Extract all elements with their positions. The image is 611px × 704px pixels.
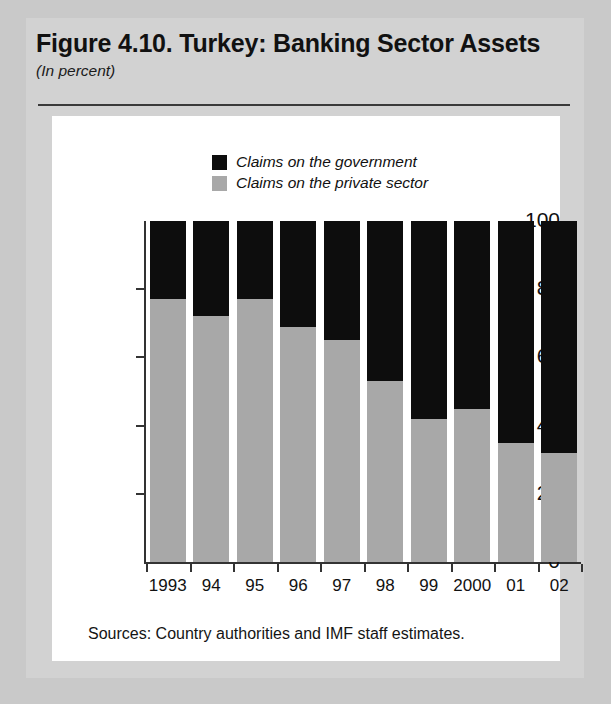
x-axis-tick-mark xyxy=(190,564,192,572)
bar-segment-government xyxy=(411,221,447,419)
x-axis-tick-label: 97 xyxy=(320,576,364,596)
x-axis-tick-mark xyxy=(407,564,409,572)
y-axis-tick-mark xyxy=(136,288,145,290)
y-axis-tick-mark xyxy=(136,493,145,495)
bar-segment-government xyxy=(541,221,577,453)
x-axis-tick-label: 99 xyxy=(407,576,451,596)
x-axis-tick-mark xyxy=(538,564,540,572)
x-axis-tick-label: 95 xyxy=(233,576,277,596)
stacked-bar-chart: 020406080100199394959697989920000102 xyxy=(52,116,560,661)
x-axis-tick-label: 96 xyxy=(277,576,321,596)
x-axis-tick-mark xyxy=(277,564,279,572)
x-axis-tick-label: 02 xyxy=(538,576,582,596)
bar-94 xyxy=(193,221,229,562)
figure-header: Figure 4.10. Turkey: Banking Sector Asse… xyxy=(36,30,572,80)
page-title: Figure 4.10. Turkey: Banking Sector Asse… xyxy=(36,30,572,58)
bar-segment-private xyxy=(454,409,490,562)
bar-segment-private xyxy=(541,453,577,562)
bar-segment-private xyxy=(237,299,273,562)
x-axis-tick-label: 94 xyxy=(190,576,234,596)
bar-segment-government xyxy=(454,221,490,409)
bar-1993 xyxy=(150,221,186,562)
x-axis-tick-mark xyxy=(233,564,235,572)
bar-01 xyxy=(498,221,534,562)
bar-02 xyxy=(541,221,577,562)
bar-segment-private xyxy=(498,443,534,562)
figure-subtitle: (In percent) xyxy=(36,62,572,80)
header-divider xyxy=(38,104,570,106)
bar-segment-government xyxy=(324,221,360,340)
x-axis-tick-mark xyxy=(364,564,366,572)
source-note: Sources: Country authorities and IMF sta… xyxy=(88,625,465,643)
bar-segment-private xyxy=(324,340,360,562)
bar-segment-government xyxy=(367,221,403,381)
bar-95 xyxy=(237,221,273,562)
plot-panel: Claims on the government Claims on the p… xyxy=(52,116,560,661)
bar-segment-private xyxy=(193,316,229,562)
figure-card: Figure 4.10. Turkey: Banking Sector Asse… xyxy=(26,18,584,678)
x-axis-tick-mark xyxy=(320,564,322,572)
bar-segment-government xyxy=(193,221,229,316)
x-axis-tick-mark xyxy=(451,564,453,572)
bar-segment-private xyxy=(150,299,186,562)
bar-segment-private xyxy=(411,419,447,562)
y-axis-tick-mark xyxy=(136,356,145,358)
bar-segment-government xyxy=(280,221,316,327)
figure-page: Figure 4.10. Turkey: Banking Sector Asse… xyxy=(0,0,611,704)
x-axis-tick-label: 2000 xyxy=(451,576,495,596)
x-axis-tick-mark xyxy=(494,564,496,572)
bar-segment-government xyxy=(237,221,273,299)
bar-98 xyxy=(367,221,403,562)
bar-segment-private xyxy=(367,381,403,562)
x-axis-tick-mark xyxy=(581,564,583,572)
bar-segment-government xyxy=(150,221,186,299)
x-axis-tick-label: 01 xyxy=(494,576,538,596)
bar-segment-private xyxy=(280,327,316,562)
y-axis-tick-mark xyxy=(136,425,145,427)
bar-97 xyxy=(324,221,360,562)
bar-96 xyxy=(280,221,316,562)
bar-99 xyxy=(411,221,447,562)
x-axis-tick-label: 98 xyxy=(364,576,408,596)
bar-segment-government xyxy=(498,221,534,443)
x-axis-tick-mark xyxy=(146,564,148,572)
x-axis-tick-label: 1993 xyxy=(146,576,190,596)
y-axis-line xyxy=(144,221,146,563)
bar-2000 xyxy=(454,221,490,562)
